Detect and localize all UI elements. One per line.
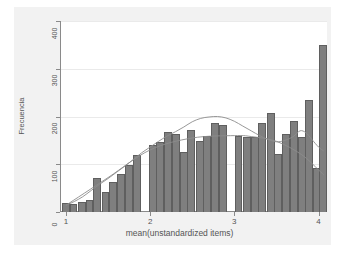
histogram-bar	[282, 134, 290, 212]
graph-region: 0100200300400 1234 Frecuencia	[14, 7, 331, 245]
histogram-bar	[219, 125, 227, 212]
y-axis-tick-label: 400	[51, 21, 58, 45]
histogram-bar	[93, 178, 101, 212]
x-axis-tick-label: 1	[56, 217, 76, 226]
y-axis-tick-label: 200	[51, 117, 58, 141]
histogram-bar	[164, 132, 172, 212]
x-axis-tick-label: 3	[224, 217, 244, 226]
histogram-bar	[187, 130, 195, 212]
figure-canvas: 0100200300400 1234 Frecuencia mean(unsta…	[0, 0, 345, 254]
y-axis-title: Frecuencia	[18, 96, 26, 136]
histogram-bar	[235, 136, 243, 212]
x-axis-tick-label: 2	[140, 217, 160, 226]
gridline	[61, 69, 327, 70]
histogram-bar	[319, 45, 327, 212]
x-axis-tick	[150, 212, 151, 216]
plot-region: 0100200300400 1234	[60, 21, 327, 212]
x-axis-tick-label: 4	[309, 217, 329, 226]
gridline	[61, 117, 327, 118]
x-axis-tick	[234, 212, 235, 216]
gridline	[61, 21, 327, 22]
histogram-bar	[133, 155, 141, 212]
histogram-bar	[258, 123, 266, 212]
x-axis-tick	[66, 212, 67, 216]
histogram-bar	[70, 204, 78, 212]
x-axis-tick	[319, 212, 320, 216]
y-axis-tick-label: 100	[51, 164, 58, 188]
x-axis-title: mean(unstandardized items)	[46, 228, 313, 238]
histogram-bar	[211, 123, 219, 212]
y-axis-tick-label: 300	[51, 69, 58, 93]
histogram-bar	[117, 174, 125, 212]
